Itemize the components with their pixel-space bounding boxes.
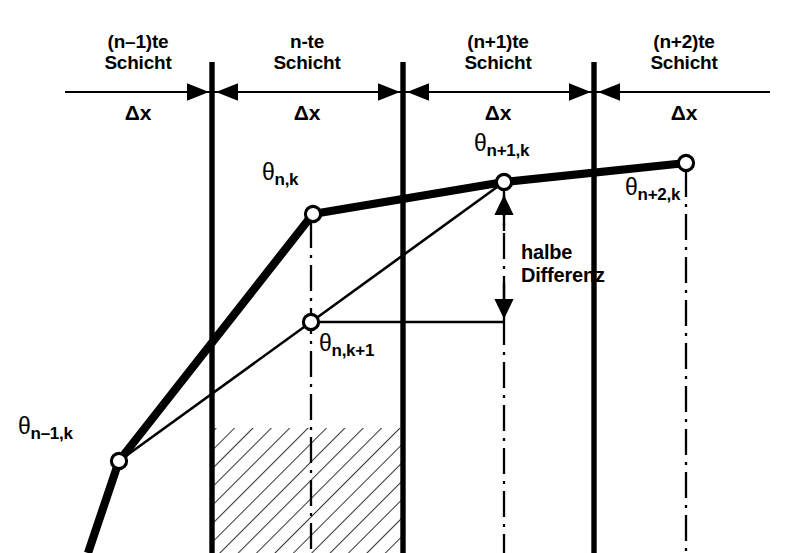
layer-label-n+2: (n+2)te Schicht — [594, 31, 774, 74]
node-label-theta-n-k+1: θn,k+1 — [319, 331, 374, 360]
dx-label-n-1: Δx — [78, 101, 198, 125]
diagram-canvas: (n–1)te Schicht n-te Schicht (n+1)te Sch… — [0, 0, 787, 553]
node-label-theta-n+2-k: θn+2,k — [625, 175, 680, 204]
node-label-theta-n+1-k: θn+1,k — [474, 131, 529, 160]
layer-label-line2: Schicht — [48, 52, 228, 73]
layer-label-line2: Schicht — [408, 52, 588, 73]
theta-symbol: θ — [319, 330, 332, 356]
half-difference-measure — [311, 195, 504, 322]
theta-subscript: n,k+1 — [332, 341, 374, 360]
layer-label-line2: Schicht — [594, 52, 774, 73]
annotation-line2: Differenz — [521, 264, 605, 287]
layer-label-line1: (n–1)te — [48, 31, 228, 52]
theta-symbol: θ — [262, 159, 275, 185]
theta-subscript: n+2,k — [638, 185, 680, 204]
layer-label-line1: n-te — [217, 31, 397, 52]
theta-subscript: n,k — [275, 170, 299, 189]
annotation-line1: halbe — [521, 241, 605, 264]
dx-label-n+1: Δx — [438, 101, 558, 125]
theta-symbol: θ — [474, 130, 487, 156]
layer-label-n: n-te Schicht — [217, 31, 397, 74]
node-label-theta-n-k: θn,k — [262, 160, 298, 189]
annotation-halbe-differenz: halbe Differenz — [521, 241, 605, 287]
layer-label-line1: (n+2)te — [594, 31, 774, 52]
layer-label-n+1: (n+1)te Schicht — [408, 31, 588, 74]
layer-label-line1: (n+1)te — [408, 31, 588, 52]
dx-label-n: Δx — [247, 101, 367, 125]
diagram-graphics — [0, 0, 787, 553]
theta-subscript: n+1,k — [487, 141, 529, 160]
theta-subscript: n–1,k — [31, 424, 73, 443]
theta-symbol: θ — [18, 413, 31, 439]
layer-label-line2: Schicht — [217, 52, 397, 73]
layer-label-n-1: (n–1)te Schicht — [48, 31, 228, 74]
node-label-theta-n-1-k: θn–1,k — [18, 414, 73, 443]
hatched-region — [213, 428, 402, 553]
theta-symbol: θ — [625, 174, 638, 200]
dx-label-n+2: Δx — [624, 101, 744, 125]
